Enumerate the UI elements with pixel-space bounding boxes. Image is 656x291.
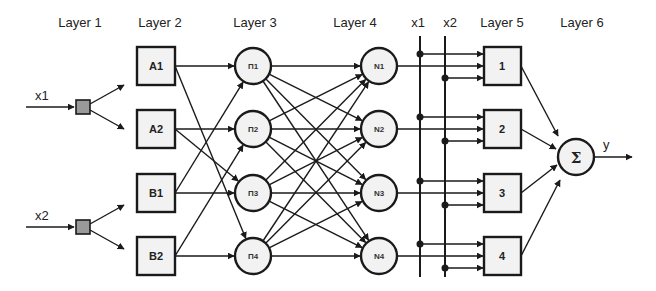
layer5-nodes: 1 2 3 4	[484, 47, 521, 275]
edge-l5-l6	[521, 165, 557, 193]
edge-l2-l3	[175, 66, 246, 238]
junction-dot-x1	[417, 51, 424, 58]
layer2-label-a2: A2	[149, 123, 163, 135]
edge-l2-l3	[175, 145, 243, 256]
junction-dot-x1	[417, 114, 424, 121]
layer5-label-1: 1	[499, 60, 505, 72]
bus-junctions	[417, 51, 449, 272]
edge-l2-l3	[175, 129, 238, 181]
layer4-label-n1: N1	[374, 62, 385, 71]
sum-symbol: Σ	[571, 149, 582, 167]
edge-l1-l2	[90, 110, 124, 129]
header-layer-5: Layer 5	[480, 15, 523, 30]
layer3-label-p2: П2	[248, 125, 259, 134]
layer1-node-x1	[76, 100, 90, 114]
layer2-label-b1: B1	[149, 187, 163, 199]
junction-dot-x2	[442, 75, 449, 82]
junction-dot-x1	[417, 241, 424, 248]
header-layer-6: Layer 6	[560, 15, 603, 30]
edge-l5-l6	[521, 180, 560, 256]
anfis-network-diagram: Layer 1 Layer 2 Layer 3 Layer 4 x1 x2 La…	[0, 0, 656, 291]
layer2-nodes: A1 A2 B1 B2	[137, 47, 175, 275]
output-label-y: y	[603, 137, 610, 152]
layer3-label-p1: П1	[248, 62, 259, 71]
layer5-label-4: 4	[499, 250, 506, 262]
header-layer-3: Layer 3	[233, 15, 276, 30]
junction-dot-x2	[442, 202, 449, 209]
input-label-x1: x1	[35, 88, 49, 103]
edge-l1-l2	[90, 85, 124, 104]
layer2-label-a1: A1	[149, 60, 163, 72]
layer2-label-b2: B2	[149, 250, 163, 262]
edge-l5-l6	[521, 129, 556, 149]
junction-dot-x1	[417, 178, 424, 185]
edge-l5-l6	[521, 66, 558, 136]
edge-l1-l2	[90, 205, 124, 224]
layer3-label-p3: П3	[248, 189, 259, 198]
layer4-nodes: N1 N2 N3 N4	[361, 48, 397, 274]
edge-l1-l2	[90, 230, 124, 249]
layer1-node-x2	[76, 220, 90, 234]
header-layer-1: Layer 1	[58, 15, 101, 30]
edges	[26, 54, 632, 268]
layer5-label-2: 2	[499, 123, 505, 135]
layer5-label-3: 3	[499, 187, 505, 199]
header-layer-4: Layer 4	[333, 15, 376, 30]
header-layer-2: Layer 2	[138, 15, 181, 30]
header-x1: x1	[411, 15, 425, 30]
layer3-label-p4: П4	[248, 252, 259, 261]
junction-dot-x2	[442, 265, 449, 272]
input-label-x2: x2	[35, 208, 49, 223]
layer3-nodes: П1 П2 П3 П4	[235, 48, 271, 274]
layer4-label-n4: N4	[374, 252, 385, 261]
layer4-label-n3: N3	[374, 189, 385, 198]
layer4-label-n2: N2	[374, 125, 385, 134]
layer-headers: Layer 1 Layer 2 Layer 3 Layer 4 x1 x2 La…	[58, 15, 603, 30]
header-x2: x2	[443, 15, 457, 30]
input-buses	[420, 36, 445, 277]
junction-dot-x2	[442, 138, 449, 145]
